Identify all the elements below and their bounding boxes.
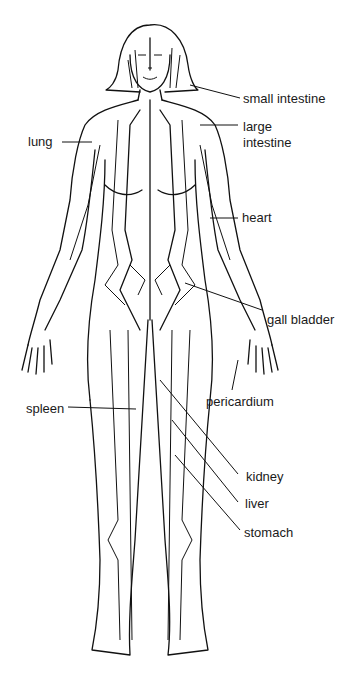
label-large-intestine-line2: intestine — [243, 135, 291, 150]
label-liver: liver — [245, 496, 269, 511]
label-gall-bladder: gall bladder — [267, 312, 334, 327]
label-pericardium: pericardium — [206, 394, 274, 409]
label-stomach: stomach — [244, 525, 293, 540]
label-large-intestine-line1: large — [243, 119, 272, 134]
meridian-diagram: small intestine large intestine lung hea… — [0, 0, 350, 674]
label-kidney: kidney — [246, 469, 284, 484]
label-heart: heart — [242, 210, 272, 225]
label-spleen: spleen — [26, 401, 64, 416]
label-lung: lung — [28, 134, 53, 149]
label-small-intestine: small intestine — [243, 91, 325, 106]
